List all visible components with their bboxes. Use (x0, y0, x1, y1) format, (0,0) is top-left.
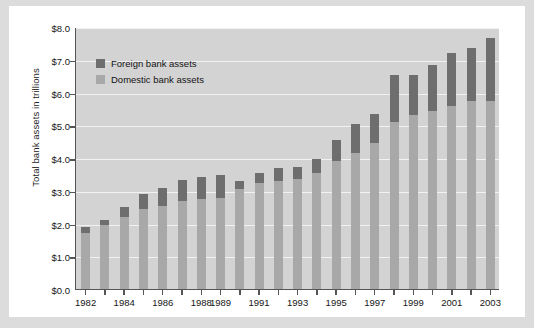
bar-segment-domestic (158, 206, 167, 290)
x-axis-tick-label: 2001 (441, 297, 462, 308)
x-axis-tick-label: 1989 (210, 297, 231, 308)
bar (158, 188, 167, 289)
bar-segment-domestic (351, 153, 360, 289)
bar (274, 168, 283, 289)
bar-segment-domestic (120, 217, 129, 289)
bar-segment-domestic (293, 179, 302, 289)
bar-segment-foreign (332, 140, 341, 161)
y-axis-tick-label: $6.0 (52, 88, 71, 99)
x-axis-tick-mark (451, 289, 453, 295)
bar-segment-domestic (332, 161, 341, 289)
bar-segment-foreign (255, 173, 264, 182)
bar (139, 194, 148, 289)
y-axis-tick-mark (70, 61, 76, 63)
bar-segment-foreign (428, 65, 437, 111)
y-axis-tick-label: $0.0 (52, 285, 71, 296)
x-axis-tick-mark (316, 289, 318, 295)
y-axis-tick-mark (70, 94, 76, 96)
bar-segment-domestic (255, 183, 264, 289)
bar-segment-domestic (486, 101, 495, 289)
x-axis-tick-mark (278, 289, 280, 295)
bar (197, 177, 206, 289)
bar-segment-domestic (428, 111, 437, 289)
y-axis-tick-label: $2.0 (52, 219, 71, 230)
legend-item: Foreign bank assets (96, 58, 204, 69)
y-axis-tick-mark (70, 192, 76, 194)
gridline (76, 28, 499, 29)
bar (370, 114, 379, 289)
x-axis-tick-mark (123, 289, 125, 295)
legend-swatch (96, 59, 105, 68)
x-axis-tick-mark (239, 289, 241, 295)
bar-segment-foreign (293, 167, 302, 179)
legend-item: Domestic bank assets (96, 74, 204, 85)
x-axis-tick-label: 1988 (191, 297, 212, 308)
bar-segment-domestic (216, 198, 225, 289)
bar-segment-domestic (467, 101, 476, 289)
bar-segment-foreign (409, 75, 418, 116)
bar-segment-domestic (197, 199, 206, 289)
bar (390, 75, 399, 289)
bar-segment-foreign (197, 177, 206, 199)
bar-segment-foreign (235, 181, 244, 189)
plot-area: $0.0$1.0$2.0$3.0$4.0$5.0$6.0$7.0$8.0 198… (75, 28, 499, 290)
y-axis-tick-label: $3.0 (52, 186, 71, 197)
bar (81, 227, 90, 289)
x-axis-tick-label: 1982 (75, 297, 96, 308)
bar (255, 173, 264, 289)
y-axis-tick-mark (70, 257, 76, 259)
bar-segment-foreign (390, 75, 399, 122)
bar-segment-foreign (351, 124, 360, 153)
bar-segment-foreign (486, 38, 495, 100)
bar-segment-domestic (409, 115, 418, 289)
x-axis-tick-mark (335, 289, 337, 295)
bar-segment-domestic (235, 189, 244, 289)
bar (332, 140, 341, 289)
bar (235, 181, 244, 289)
bar-segment-domestic (390, 122, 399, 289)
bar (467, 48, 476, 289)
x-axis-tick-label: 1995 (326, 297, 347, 308)
x-axis-tick-mark (104, 289, 106, 295)
bar (447, 53, 456, 289)
bar (409, 75, 418, 290)
x-axis-tick-mark (85, 289, 87, 295)
x-axis-tick-mark (413, 289, 415, 295)
x-axis-tick-mark (470, 289, 472, 295)
bar-segment-domestic (312, 173, 321, 289)
bar-segment-foreign (447, 53, 456, 105)
bar (351, 124, 360, 289)
bar-segment-foreign (158, 188, 167, 205)
x-axis-tick-label: 2003 (480, 297, 501, 308)
chart-legend: Foreign bank assetsDomestic bank assets (96, 58, 204, 90)
bar (312, 159, 321, 289)
x-axis-tick-mark (258, 289, 260, 295)
y-axis-tick-mark (70, 126, 76, 128)
bar (293, 167, 302, 289)
bar (428, 65, 437, 289)
bar-segment-domestic (370, 143, 379, 289)
x-axis-tick-label: 1999 (403, 297, 424, 308)
x-axis-tick-mark (297, 289, 299, 295)
bar-segment-foreign (216, 175, 225, 198)
y-axis-tick-mark (70, 225, 76, 227)
bar (100, 220, 109, 289)
y-axis-title: Total bank assets in trillions (30, 18, 41, 238)
bar-segment-foreign (312, 159, 321, 173)
x-axis-tick-label: 1993 (287, 297, 308, 308)
bar-segment-domestic (81, 233, 90, 289)
x-axis-tick-mark (143, 289, 145, 295)
bar (486, 38, 495, 289)
bar-segment-domestic (447, 106, 456, 289)
x-axis-tick-label: 1984 (114, 297, 135, 308)
y-axis-tick-label: $5.0 (52, 121, 71, 132)
bar-segment-domestic (274, 181, 283, 289)
x-axis-tick-mark (355, 289, 357, 295)
legend-swatch (96, 75, 105, 84)
bar (178, 180, 187, 289)
x-axis-tick-label: 1991 (249, 297, 270, 308)
legend-label: Foreign bank assets (111, 58, 197, 69)
x-axis-tick-label: 1986 (152, 297, 173, 308)
x-axis-tick-mark (432, 289, 434, 295)
bar-segment-domestic (178, 201, 187, 289)
